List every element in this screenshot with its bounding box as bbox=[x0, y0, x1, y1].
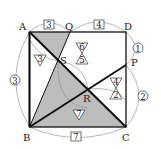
svg-text:7: 7 bbox=[73, 132, 78, 142]
svg-text:3: 3 bbox=[12, 76, 17, 86]
point-label-p: P bbox=[131, 57, 138, 68]
svg-text:6: 6 bbox=[79, 42, 84, 52]
point-label-r: R bbox=[83, 93, 91, 104]
triangle-label-left-s: 3 bbox=[34, 54, 46, 67]
svg-text:3: 3 bbox=[37, 54, 42, 64]
svg-text:4: 4 bbox=[96, 20, 101, 30]
svg-text:1: 1 bbox=[135, 44, 140, 54]
circled-label-dp: 1 bbox=[133, 43, 143, 54]
boxed-label-qd: 4 bbox=[94, 20, 104, 30]
point-label-q: Q bbox=[65, 21, 73, 32]
triangle-label-2: 2 bbox=[110, 88, 122, 100]
point-label-a: A bbox=[18, 21, 27, 32]
boxed-label-bc: 7 bbox=[71, 132, 81, 142]
arc-pc bbox=[126, 65, 139, 127]
boxed-label-aq: 3 bbox=[44, 20, 54, 30]
svg-text:5: 5 bbox=[79, 55, 84, 65]
circled-label-ab: 3 bbox=[10, 75, 20, 86]
geometry-diagram: A Q D P S R B C 3 4 7 1 2 3 3 6 5 bbox=[0, 0, 161, 149]
triangle-label-6: 6 bbox=[76, 42, 88, 54]
point-label-s: S bbox=[60, 55, 67, 66]
svg-text:7: 7 bbox=[76, 109, 81, 119]
svg-text:2: 2 bbox=[140, 92, 145, 102]
svg-text:4: 4 bbox=[113, 77, 118, 87]
triangle-label-4: 4 bbox=[110, 77, 122, 89]
point-label-d: D bbox=[124, 21, 132, 32]
svg-text:2: 2 bbox=[113, 90, 118, 100]
point-label-c: C bbox=[122, 132, 130, 143]
svg-text:3: 3 bbox=[46, 20, 51, 30]
circled-label-pc: 2 bbox=[138, 91, 148, 102]
triangle-label-5: 5 bbox=[76, 53, 88, 65]
point-label-b: B bbox=[23, 132, 30, 143]
